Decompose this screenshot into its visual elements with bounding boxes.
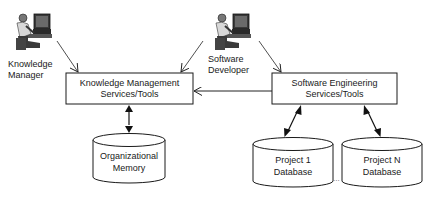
arrow-sd-to-se-services: [259, 41, 281, 72]
box-label-line1: Software Engineering: [291, 78, 377, 88]
actor-label-line1: Software: [208, 54, 244, 64]
db-label-line2: Memory: [113, 163, 146, 173]
db-label-line1: Project N: [363, 155, 400, 165]
box-se-services: Software Engineering Services/Tools: [272, 73, 397, 104]
box-label-line2: Services/Tools: [305, 89, 364, 99]
architecture-diagram: Knowledge Manager Software Developer Kno…: [0, 0, 426, 198]
actor-software-developer: Software Developer: [208, 14, 251, 75]
ellipsis: ...: [333, 174, 340, 183]
person-at-computer-icon: [215, 14, 251, 50]
db-organizational-memory: Organizational Memory: [93, 134, 165, 184]
person-at-computer-icon: [16, 14, 52, 50]
box-label-line2: Services/Tools: [100, 89, 159, 99]
actor-knowledge-manager: Knowledge Manager: [8, 14, 53, 80]
arrow-sd-to-km-services: [181, 41, 203, 72]
db-label-line2: Database: [274, 167, 313, 177]
db-label-line1: Organizational: [100, 151, 158, 161]
actor-label-line2: Manager: [8, 70, 44, 80]
actor-label-line1: Knowledge: [8, 59, 53, 69]
actor-label-line2: Developer: [208, 65, 249, 75]
db-project-n: Project N Database: [342, 138, 422, 188]
arrow-km-to-km-services: [57, 41, 78, 72]
db-label-line1: Project 1: [275, 155, 311, 165]
box-label-line1: Knowledge Management: [80, 78, 180, 88]
db-label-line2: Database: [363, 167, 402, 177]
db-project-1: Project 1 Database: [253, 138, 333, 187]
box-km-services: Knowledge Management Services/Tools: [66, 73, 193, 104]
